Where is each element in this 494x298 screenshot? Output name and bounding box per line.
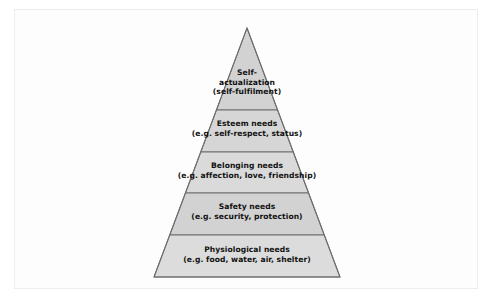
pyramid-tier-esteem-needs[interactable]: [201, 110, 293, 152]
pyramid-diagram: Self- actualization (self-fulfilment) Es…: [0, 0, 494, 298]
pyramid-tier-safety-needs[interactable]: [170, 193, 324, 235]
pyramid-shape-layer: [0, 0, 494, 298]
pyramid-tier-self-actualization[interactable]: [217, 28, 278, 110]
pyramid-tier-belonging-needs[interactable]: [186, 152, 309, 193]
pyramid-tier-physiological-needs[interactable]: [154, 235, 340, 277]
figure-root: Self- actualization (self-fulfilment) Es…: [0, 0, 494, 298]
